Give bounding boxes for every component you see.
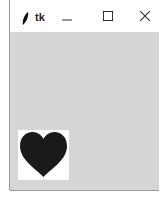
feather-icon	[22, 11, 29, 24]
minimize-button[interactable]	[53, 6, 81, 28]
canvas-area[interactable]	[10, 32, 159, 191]
close-icon	[140, 10, 150, 24]
heart-icon	[18, 130, 69, 180]
minimize-icon	[62, 10, 72, 24]
heart-image	[18, 130, 69, 180]
maximize-button[interactable]	[94, 6, 122, 28]
tk-window: tk	[9, 0, 159, 190]
close-button[interactable]	[131, 6, 159, 28]
window-title: tk	[35, 11, 45, 23]
maximize-icon	[103, 10, 113, 24]
titlebar[interactable]: tk	[10, 0, 159, 32]
